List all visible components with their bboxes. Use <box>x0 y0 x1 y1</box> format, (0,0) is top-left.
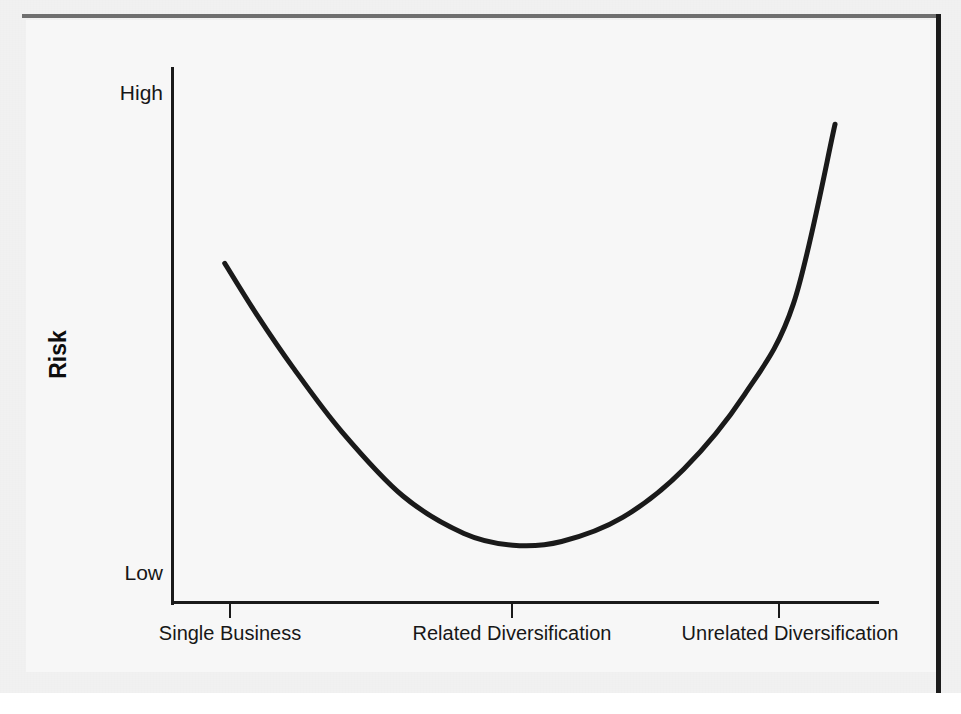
figure-page: High Low Risk Single Business Related Di… <box>0 0 961 714</box>
x-axis-label-single-business: Single Business <box>159 622 301 645</box>
x-tick-mark-3 <box>778 604 780 618</box>
y-axis-title: Risk <box>45 285 72 425</box>
y-axis-label-high: High <box>23 81 163 105</box>
x-axis-line <box>171 601 879 604</box>
y-axis-line <box>171 67 174 605</box>
x-tick-mark-1 <box>229 604 231 618</box>
x-axis-label-related-diversification: Related Diversification <box>413 622 612 645</box>
y-axis-label-low: Low <box>23 561 163 585</box>
risk-curve-path <box>225 124 835 546</box>
x-axis-label-unrelated-diversification: Unrelated Diversification <box>682 622 899 645</box>
x-tick-mark-2 <box>511 604 513 618</box>
risk-diversification-chart: High Low Risk Single Business Related Di… <box>0 0 961 693</box>
